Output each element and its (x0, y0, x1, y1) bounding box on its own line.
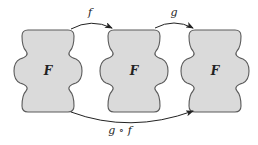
set-label-1: F (43, 64, 54, 78)
set-label-3: F (210, 64, 221, 78)
arrow-g-label: g (170, 6, 177, 19)
arrow-g (155, 23, 193, 28)
set-blob-3: F (181, 30, 249, 112)
arrow-g-compose-f (71, 111, 193, 123)
arrow-g-compose-f-label: g ∘ f (108, 124, 133, 137)
composition-diagram: F F F f g g ∘ f (0, 0, 258, 145)
set-blob-2: F (100, 30, 168, 112)
set-blob-1: F (14, 30, 82, 112)
arrow-f-label: f (87, 6, 94, 19)
arrow-f (71, 23, 112, 29)
set-label-2: F (129, 64, 140, 78)
